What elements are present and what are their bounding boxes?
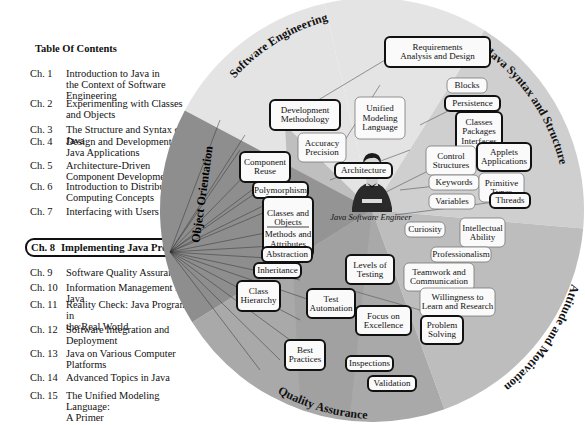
node-blocks[interactable]: Blocks [447,78,487,93]
node-label: Applications [481,156,527,166]
node-polymorphism[interactable]: Polymorphism [253,182,308,198]
concept-wheel-diagram: Software EngineeringJava Syntax and Stru… [0,0,585,425]
node-development-methodology[interactable]: DevelopmentMethodology [270,100,340,130]
node-professionalism[interactable]: Professionalism [431,247,491,262]
node-label: Inspections [349,358,390,368]
node-inheritance[interactable]: Inheritance [254,263,301,278]
node-label: Architecture [341,165,386,175]
node-label: Blocks [454,80,479,90]
node-label: Practices [289,354,322,364]
node-label: Testing [357,269,384,279]
node-label: Precision [305,147,339,157]
node-label: Polymorphism [254,185,307,195]
node-unified-modeling-language[interactable]: UnifiedModelingLanguage [355,97,405,139]
node-levels-of-testing[interactable]: Levels ofTesting [346,255,394,284]
node-label: Language [362,122,397,132]
node-abstraction[interactable]: Abstraction [262,247,312,262]
node-label: Learn and Research [422,301,494,311]
node-label: Structures [433,160,470,170]
node-label: Curiosity [408,224,442,234]
node-accuracy-precision[interactable]: AccuracyPrecision [298,133,346,162]
node-threads[interactable]: Threads [490,193,530,208]
node-problem-solving[interactable]: ProblemSolving [421,316,463,344]
node-requirements-analysis-and-design[interactable]: RequirementsAnalysis and Design [385,37,490,67]
node-keywords[interactable]: Keywords [429,175,479,190]
node-validation[interactable]: Validation [368,376,416,391]
node-teamwork-and-communication[interactable]: Teamwork andCommunication [404,263,474,291]
node-inspections[interactable]: Inspections [346,356,393,371]
node-label: Excellence [364,320,403,330]
node-control-structures[interactable]: ControlStructures [426,146,476,175]
node-label: Persistence [452,98,493,108]
node-architecture[interactable]: Architecture [335,163,392,178]
node-label: Professionalism [432,249,490,259]
node-curiosity[interactable]: Curiosity [405,222,445,237]
node-label: Inheritance [257,265,297,275]
node-label: Validation [374,378,411,388]
node-label: Automation [310,303,353,313]
node-best-practices[interactable]: BestPractices [285,340,325,370]
node-label: Methodology [281,114,330,124]
node-label: Solving [428,329,457,339]
node-label: Hierarchy [241,295,277,305]
node-label: Reuse [254,166,276,176]
node-component-reuse[interactable]: ComponentReuse [240,152,290,182]
node-label: Threads [496,195,525,205]
node-applets-applications[interactable]: AppletsApplications [477,143,531,171]
node-focus-on-excellence[interactable]: Focus onExcellence [356,306,411,335]
node-label: Communication [410,276,468,286]
node-label: Variables [435,196,469,206]
node-label: Keywords [436,177,473,187]
node-label: Objects [274,217,302,227]
node-intellectual-ability[interactable]: IntellectualAbility [460,218,505,247]
node-test-automation[interactable]: TestAutomation [307,289,355,318]
node-label: Ability [470,232,496,242]
node-persistence[interactable]: Persistence [445,96,500,111]
node-variables[interactable]: Variables [429,194,475,209]
center-caption: Java Software Engineer [330,212,412,222]
node-willingness-to-learn-and-research[interactable]: Willingness toLearn and Research [420,288,495,316]
node-label: Abstraction [266,249,308,259]
node-class-hierarchy[interactable]: ClassHierarchy [237,281,280,311]
node-label: Analysis and Design [400,51,475,61]
